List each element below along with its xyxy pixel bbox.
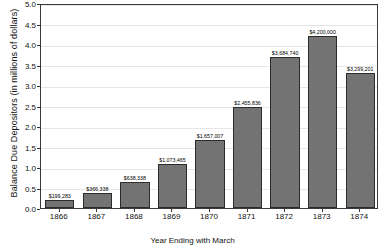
bar-value-label: $3,684,740 — [272, 50, 299, 57]
y-tick-label: 3.0 — [2, 82, 36, 91]
x-tick-mark — [322, 209, 323, 212]
bar-value-label: $199,283 — [49, 193, 71, 200]
bar: $199,283 — [45, 200, 74, 208]
x-tick-label: 1867 — [87, 212, 105, 221]
x-tick-label: 1870 — [200, 212, 218, 221]
bar-value-label: $2,455,836 — [234, 100, 261, 107]
y-tick-label: 0.0 — [2, 205, 36, 214]
x-tick-mark — [284, 209, 285, 212]
x-tick-mark — [134, 209, 135, 212]
y-tick-mark — [37, 209, 40, 210]
bar: $1,073,465 — [158, 164, 187, 208]
bar: $4,200,000 — [308, 36, 337, 208]
bar-value-label: $1,657,007 — [197, 133, 224, 140]
gridline — [41, 5, 377, 6]
bar-chart-figure: Balance Due Depositors (in millions of d… — [0, 0, 385, 247]
y-tick-label: 1.5 — [2, 143, 36, 152]
gridline — [41, 25, 377, 26]
y-tick-label: 4.5 — [2, 20, 36, 29]
x-tick-label: 1874 — [350, 212, 368, 221]
bar: $3,299,201 — [346, 73, 375, 208]
y-tick-label: 4.0 — [2, 41, 36, 50]
x-tick-mark — [96, 209, 97, 212]
x-tick-label: 1871 — [238, 212, 256, 221]
x-tick-mark — [359, 209, 360, 212]
bar-value-label: $3,299,201 — [347, 66, 374, 73]
bar: $2,455,836 — [233, 107, 262, 208]
x-axis-title: Year Ending with March — [0, 236, 385, 245]
y-tick-label: 2.0 — [2, 123, 36, 132]
y-tick-label: 2.5 — [2, 102, 36, 111]
y-tick-label: 1.0 — [2, 164, 36, 173]
bar: $1,657,007 — [195, 140, 224, 208]
bar-value-label: $4,200,000 — [309, 29, 336, 36]
x-tick-label: 1869 — [163, 212, 181, 221]
plot-inner: $199,283$366,338$638,338$1,073,465$1,657… — [41, 5, 377, 208]
bar: $366,338 — [83, 193, 112, 208]
y-tick-label: 0.5 — [2, 184, 36, 193]
plot-area: $199,283$366,338$638,338$1,073,465$1,657… — [40, 4, 378, 209]
x-tick-label: 1868 — [125, 212, 143, 221]
y-tick-label: 3.5 — [2, 61, 36, 70]
bar-value-label: $638,338 — [124, 175, 146, 182]
x-tick-mark — [247, 209, 248, 212]
x-tick-label: 1872 — [275, 212, 293, 221]
bar: $638,338 — [120, 182, 149, 208]
bar-value-label: $1,073,465 — [159, 157, 186, 164]
bar-value-label: $366,338 — [86, 186, 108, 193]
bar: $3,684,740 — [270, 57, 299, 208]
x-tick-mark — [209, 209, 210, 212]
x-tick-mark — [59, 209, 60, 212]
y-tick-label: 5.0 — [2, 0, 36, 9]
x-tick-mark — [171, 209, 172, 212]
x-tick-label: 1873 — [313, 212, 331, 221]
x-tick-label: 1866 — [50, 212, 68, 221]
